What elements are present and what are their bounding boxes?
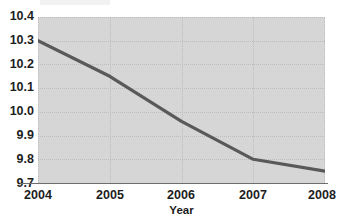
x-axis-title: Year bbox=[38, 204, 325, 217]
y-axis-tick-label: 10.2 bbox=[0, 58, 34, 71]
plot-area bbox=[38, 17, 325, 183]
y-axis-tick-label: 10.0 bbox=[0, 105, 34, 118]
x-axis-tick-label: 2006 bbox=[155, 188, 207, 202]
cropped-header-artifact bbox=[40, 0, 110, 5]
x-axis-tick-label: 2005 bbox=[84, 188, 136, 202]
y-axis-tick-label: 10.4 bbox=[0, 10, 34, 23]
x-axis-tick-label: 2008 bbox=[296, 188, 341, 202]
y-axis-tick-label: 9.9 bbox=[0, 129, 34, 142]
data-series-line bbox=[38, 17, 325, 183]
x-axis-tick-label: 2007 bbox=[227, 188, 279, 202]
y-axis-tick-label: 9.8 bbox=[0, 153, 34, 166]
y-axis-tick-label: 10.1 bbox=[0, 81, 34, 94]
y-axis-tick-label: 10.3 bbox=[0, 34, 34, 47]
x-axis-tick-label: 2004 bbox=[12, 188, 64, 202]
x-axis-line bbox=[20, 183, 328, 184]
